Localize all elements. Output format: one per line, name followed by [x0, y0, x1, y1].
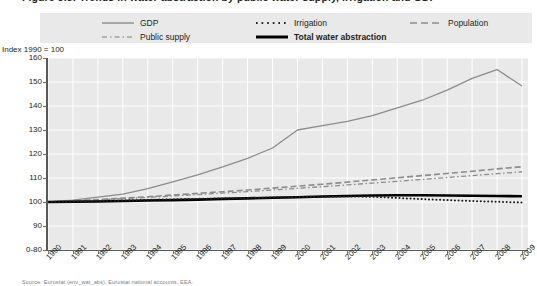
chart-legend: GDP Irrigation Population Public supply: [40, 13, 532, 43]
y-tick-mark: [43, 202, 47, 203]
legend-item-total-water-abstraction: Total water abstraction: [256, 31, 386, 43]
legend-line-dotted-icon: [256, 18, 288, 28]
y-tick-mark: [43, 82, 47, 83]
y-tick-mark: [43, 178, 47, 179]
y-tick-label: 130: [6, 126, 42, 134]
y-tick-label: 100: [6, 198, 42, 206]
y-tick-label: 160: [6, 54, 42, 62]
legend-item-gdp: GDP: [102, 17, 158, 29]
y-axis-ticks: 160150140130120110100900-80: [0, 0, 42, 286]
y-tick-mark: [43, 154, 47, 155]
y-tick-mark: [43, 106, 47, 107]
legend-item-irrigation: Irrigation: [256, 17, 327, 29]
y-tick-label: 150: [6, 78, 42, 86]
y-tick-mark: [43, 250, 47, 251]
y-tick-label: 110: [6, 174, 42, 182]
chart-series-layer: [48, 70, 522, 203]
legend-label-gdp: GDP: [140, 18, 158, 28]
series-line-gdp: [48, 70, 522, 202]
figure-caption: Source: Eurostat (env_wat_abs), Eurostat…: [22, 279, 522, 285]
chart-svg: [46, 58, 528, 250]
y-tick-mark: [43, 226, 47, 227]
y-tick-mark: [43, 58, 47, 59]
y-tick-label: 140: [6, 102, 42, 110]
plot-area: [46, 58, 528, 250]
legend-item-public-supply: Public supply: [102, 31, 190, 43]
legend-label-total-water-abstraction: Total water abstraction: [294, 32, 386, 42]
legend-line-solid-icon: [102, 18, 134, 28]
legend-line-dashdot-icon: [102, 32, 134, 42]
legend-line-thick-solid-icon: [256, 32, 288, 42]
legend-label-irrigation: Irrigation: [294, 18, 327, 28]
y-tick-label: 120: [6, 150, 42, 158]
legend-item-population: Population: [410, 17, 488, 29]
legend-label-public-supply: Public supply: [140, 32, 190, 42]
y-tick-label: 90: [6, 222, 42, 230]
figure-title: Figure 3.3: Trends in water abstraction …: [22, 0, 522, 3]
legend-line-dashed-icon: [410, 18, 442, 28]
y-tick-mark: [43, 130, 47, 131]
legend-label-population: Population: [448, 18, 488, 28]
y-tick-label: 0-80: [6, 246, 42, 254]
